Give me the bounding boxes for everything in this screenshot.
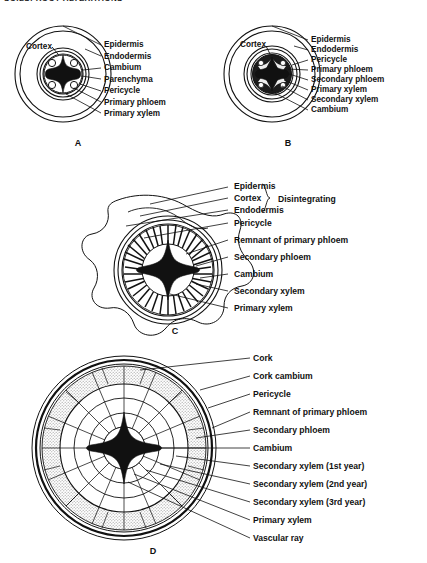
panel-c-letter: C	[165, 326, 185, 336]
panel-c-label-secondary-phloem: Secondary phloem	[234, 253, 311, 262]
panel-a-label-parenchyma: Parenchyma	[104, 76, 153, 84]
root-anatomy-figure: SOILS: ROOT ALTERATIONS	[0, 0, 427, 563]
panel-c-drawing	[0, 178, 400, 343]
panel-d-label-cambium: Cambium	[253, 444, 292, 453]
panel-c-label-pericycle: Pericycle	[234, 219, 272, 228]
panel-a: Cortex Epidermis Endodermis Cambium Pare…	[0, 14, 210, 154]
panel-b-label-secondary-xylem: Secondary xylem	[311, 96, 378, 104]
panel-b-label-endodermis: Endodermis	[311, 46, 358, 54]
panel-c-label-cambium: Cambium	[234, 270, 273, 279]
panel-c-label-cortex: Cortex	[234, 194, 261, 203]
panel-d-label-primary-xylem: Primary xylem	[253, 516, 312, 525]
panel-a-label-cambium: Cambium	[104, 64, 141, 72]
panel-a-label-primary-phloem: Primary phloem	[104, 99, 166, 107]
panel-c-label-epidermis: Epidermis	[234, 182, 276, 191]
panel-a-label-endodermis: Endodermis	[104, 53, 151, 61]
panel-c-label-remnant-of-primary-phloem: Remnant of primary phloem	[234, 236, 348, 245]
panel-d-drawing	[0, 352, 427, 557]
panel-c-label-endodermis: Endodermis	[234, 206, 284, 215]
panel-d-label-secondary-xylem-2nd-year: Secondary xylem (2nd year)	[253, 480, 367, 489]
panel-c: Epidermis Cortex Endodermis Disintegrati…	[0, 178, 427, 348]
panel-d-letter: D	[143, 546, 163, 556]
panel-b-letter: B	[278, 138, 298, 148]
panel-b-label-secondary-phloem: Secondary phloem	[311, 76, 384, 84]
panel-d-label-pericycle: Pericycle	[253, 390, 291, 399]
panel-a-letter: A	[68, 138, 88, 148]
panel-b-label-primary-xylem: Primary xylem	[311, 86, 367, 94]
panel-a-label-pericycle: Pericycle	[104, 87, 140, 95]
panel-a-inner-label: Cortex	[26, 43, 52, 51]
panel-c-bracket-note: Disintegrating	[278, 194, 336, 204]
panel-b-inner-label: Cortex	[240, 41, 266, 49]
panel-d-label-secondary-phloem: Secondary phloem	[253, 426, 330, 435]
panel-b-label-cambium: Cambium	[311, 106, 348, 114]
panel-b-label-pericycle: Pericycle	[311, 56, 347, 64]
panel-d: Cork Cork cambium Pericycle Remnant of p…	[0, 352, 427, 563]
panel-a-label-epidermis: Epidermis	[104, 41, 144, 49]
panel-c-label-primary-xylem: Primary xylem	[234, 304, 293, 313]
panel-a-label-primary-xylem: Primary xylem	[104, 110, 160, 118]
panel-d-label-secondary-xylem-1st-year: Secondary xylem (1st year)	[253, 462, 364, 471]
panel-b: Cortex Epidermis Endodermis Pericycle Pr…	[212, 14, 427, 154]
panel-b-label-primary-phloem: Primary phloem	[311, 66, 373, 74]
panel-b-label-epidermis: Epidermis	[311, 36, 351, 44]
panel-d-label-vascular-ray: Vascular ray	[253, 534, 304, 543]
panel-d-label-remnant-of-primary-phloem: Remnant of primary phloem	[253, 408, 367, 417]
panel-d-label-cork: Cork	[253, 354, 273, 363]
panel-c-label-secondary-xylem: Secondary xylem	[234, 287, 305, 296]
panel-d-label-cork-cambium: Cork cambium	[253, 372, 313, 381]
panel-d-label-secondary-xylem-3rd-year: Secondary xylem (3rd year)	[253, 498, 365, 507]
page-header: SOILS: ROOT ALTERATIONS	[4, 0, 123, 3]
